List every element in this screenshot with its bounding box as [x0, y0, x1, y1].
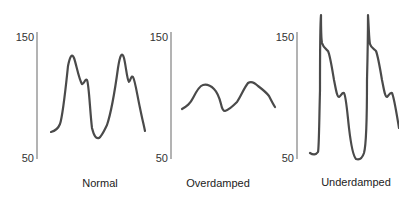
ytick-50-underdamped: 50: [282, 152, 294, 164]
panel-label-overdamped: Overdamped: [186, 177, 250, 189]
ytick-150-normal: 150: [16, 31, 34, 43]
waveform-underdamped: [310, 15, 399, 159]
ytick-150-underdamped: 150: [276, 31, 294, 43]
panel-label-normal: Normal: [82, 177, 117, 189]
panel-label-underdamped: Underdamped: [321, 176, 391, 188]
ytick-50-normal: 50: [22, 152, 34, 164]
chart-canvas: 150 50 Normal 150 50 Overdamped 150 50 U…: [0, 0, 399, 197]
panel-normal: 150 50 Normal: [16, 31, 145, 189]
panel-underdamped: 150 50 Underdamped: [276, 15, 399, 188]
waveform-overdamped: [182, 82, 275, 111]
waveform-normal: [51, 55, 145, 139]
waveform-comparison-figure: 150 50 Normal 150 50 Overdamped 150 50 U…: [0, 0, 399, 197]
ytick-150-overdamped: 150: [150, 31, 168, 43]
panel-overdamped: 150 50 Overdamped: [150, 31, 275, 189]
ytick-50-overdamped: 50: [156, 152, 168, 164]
